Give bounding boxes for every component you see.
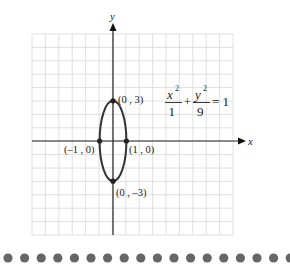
divider-dot [103,253,112,262]
eq-exp-y: 2 [203,84,207,93]
eq-numerator-y: y [193,87,201,102]
divider-dot [169,253,178,262]
label-point-0-3: (0 , 3) [118,94,144,106]
dotted-divider [3,253,290,262]
point-neg1-0 [97,138,102,143]
ellipse-diagram: x y (0 , 3) (0 , –3) (–1 , 0) (1 , 0) x … [0,0,290,268]
eq-exp-x: 2 [175,84,179,93]
y-axis-arrow-icon [110,23,117,31]
divider-dot [70,253,79,262]
divider-dot [153,253,162,262]
eq-numerator-x: x [166,87,173,102]
divider-dot [252,253,261,262]
y-axis-label: y [109,10,115,22]
divider-dot [3,253,12,262]
divider-dot [37,253,46,262]
divider-dot [269,253,278,262]
label-point-neg1-0: (–1 , 0) [64,144,95,156]
point-labels: (0 , 3) (0 , –3) (–1 , 0) (1 , 0) [64,94,155,199]
eq-denominator-9: 9 [197,104,204,119]
eq-denominator-1: 1 [169,104,176,119]
point-0-3 [110,98,115,103]
eq-equals-1: = 1 [212,94,229,109]
grid-lines [32,34,233,235]
divider-dot [203,253,212,262]
divider-dot [286,253,290,262]
divider-dot [136,253,145,262]
divider-dot [219,253,228,262]
divider-dot [86,253,95,262]
divider-dot [186,253,195,262]
point-1-0 [124,138,129,143]
x-axis-arrow-icon [238,138,246,145]
divider-dot [53,253,62,262]
x-axis-label: x [247,135,253,147]
label-point-1-0: (1 , 0) [129,144,155,156]
divider-dot [120,253,129,262]
divider-dot [236,253,245,262]
eq-plus: + [184,95,191,109]
label-point-0-neg3: (0 , –3) [116,187,147,199]
point-0-neg3 [110,179,115,184]
divider-dot [20,253,29,262]
